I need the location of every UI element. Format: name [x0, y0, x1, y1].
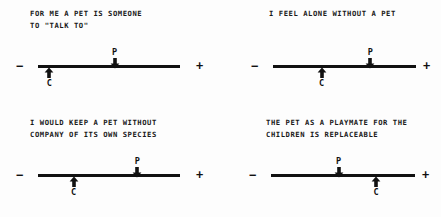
- arrow-down-icon: [332, 167, 346, 178]
- marker-c-label: C: [315, 79, 329, 88]
- figure-root: FOR ME A PET IS SOMEONE TO "TALK TO" − +…: [0, 0, 441, 217]
- arrow-down-icon: [363, 58, 377, 69]
- bipolar-scale: − + P C: [221, 48, 441, 100]
- arrow-up-icon: [315, 67, 329, 78]
- marker-p: P: [363, 48, 377, 69]
- scale-pole-negative: −: [251, 60, 258, 72]
- scale-axis-line: [273, 65, 416, 68]
- marker-c: C: [369, 176, 383, 197]
- arrow-up-icon: [42, 67, 56, 78]
- scale-pole-negative: −: [16, 169, 23, 181]
- scale-pole-negative: −: [249, 169, 256, 181]
- scale-panel: I FEEL ALONE WITHOUT A PET − + P C: [221, 0, 441, 108]
- marker-p-label: P: [363, 48, 377, 57]
- marker-p-label: P: [332, 157, 346, 166]
- scale-pole-positive: +: [196, 169, 203, 181]
- marker-c: C: [67, 176, 81, 197]
- panel-caption: I WOULD KEEP A PET WITHOUT COMPANY OF IT…: [30, 117, 215, 140]
- bipolar-scale: − + P C: [0, 157, 220, 209]
- arrow-down-icon: [108, 58, 122, 69]
- marker-c: C: [315, 67, 329, 88]
- marker-c-label: C: [42, 79, 56, 88]
- scale-panel: I WOULD KEEP A PET WITHOUT COMPANY OF IT…: [0, 109, 220, 217]
- bipolar-scale: − + P C: [221, 157, 441, 209]
- arrow-up-icon: [67, 176, 81, 187]
- scale-pole-positive: +: [422, 169, 429, 181]
- scale-pole-positive: +: [423, 60, 430, 72]
- scale-pole-negative: −: [16, 60, 23, 72]
- marker-p-label: P: [108, 48, 122, 57]
- scale-axis-line: [38, 174, 180, 177]
- arrow-down-icon: [130, 167, 144, 178]
- panel-caption: I FEEL ALONE WITHOUT A PET: [269, 8, 441, 20]
- marker-p: P: [130, 157, 144, 178]
- scale-panel: FOR ME A PET IS SOMEONE TO "TALK TO" − +…: [0, 0, 220, 108]
- bipolar-scale: − + P C: [0, 48, 220, 100]
- panel-caption: FOR ME A PET IS SOMEONE TO "TALK TO": [30, 8, 215, 31]
- panel-caption: THE PET AS A PLAYMATE FOR THE CHILDREN I…: [266, 117, 441, 140]
- marker-p-label: P: [130, 157, 144, 166]
- marker-c: C: [42, 67, 56, 88]
- scale-pole-positive: +: [196, 60, 203, 72]
- marker-c-label: C: [67, 188, 81, 197]
- arrow-up-icon: [369, 176, 383, 187]
- scale-panel: THE PET AS A PLAYMATE FOR THE CHILDREN I…: [221, 109, 441, 217]
- marker-p: P: [332, 157, 346, 178]
- marker-c-label: C: [369, 188, 383, 197]
- marker-p: P: [108, 48, 122, 69]
